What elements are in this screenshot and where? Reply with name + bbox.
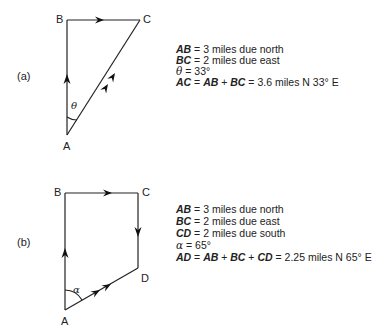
eq-b-5: AD = AB + BC + CD = 2.25 miles N 65° E: [176, 251, 372, 263]
eq-a-4: AC = AB + BC = 3.6 miles N 33° E: [176, 76, 339, 88]
eq-b-3: CD = 2 miles due south: [176, 227, 285, 239]
point-a-label-b: A: [61, 316, 68, 327]
point-b-label-b: B: [54, 187, 61, 198]
point-a-label: A: [63, 141, 70, 152]
point-b-label: B: [56, 14, 63, 25]
eq-b-4: α = 65°: [176, 239, 211, 251]
point-c-label: C: [143, 14, 151, 25]
theta-label: θ: [71, 101, 77, 111]
double-arrow-ac-icon: [100, 71, 118, 93]
eq-b-2: BC = 2 miles due east: [176, 215, 280, 227]
point-d-label: D: [141, 273, 149, 284]
triangle-a: [67, 20, 140, 135]
alpha-label: α: [73, 285, 80, 295]
panel-b-tag: (b): [17, 237, 30, 248]
point-c-label-b: C: [142, 187, 150, 198]
eq-b-1: AB = 3 miles due north: [176, 203, 284, 215]
panel-a-tag: (a): [17, 71, 30, 82]
